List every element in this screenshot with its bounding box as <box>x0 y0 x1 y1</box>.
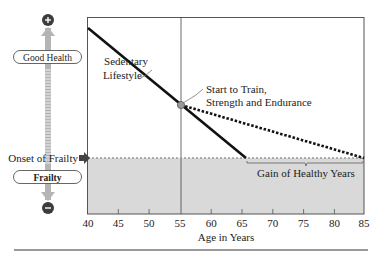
good-health-badge: Good Health <box>14 51 82 64</box>
health-frailty-chart: Sedentary Lifestyle Start to Train, Stre… <box>0 0 380 255</box>
minus-circle-icon <box>42 202 54 214</box>
svg-text:60: 60 <box>206 217 218 229</box>
x-tick-labels: 40 45 50 55 60 65 70 75 80 85 <box>83 217 371 229</box>
svg-text:40: 40 <box>83 217 95 229</box>
x-axis-label: Age in Years <box>198 231 255 243</box>
training-line <box>181 105 364 158</box>
svg-text:45: 45 <box>113 217 125 229</box>
onset-of-frailty-label: Onset of Frailty <box>8 152 78 164</box>
sedentary-label-line2: Lifestyle <box>103 69 142 81</box>
up-arrowhead <box>41 27 55 36</box>
svg-text:65: 65 <box>237 217 249 229</box>
down-arrowhead <box>41 192 55 201</box>
sedentary-label-line1: Sedentary <box>104 55 148 67</box>
svg-text:70: 70 <box>267 217 279 229</box>
svg-text:80: 80 <box>329 217 341 229</box>
training-label-line1: Start to Train, <box>206 83 267 95</box>
svg-text:Frailty: Frailty <box>34 173 62 183</box>
svg-text:75: 75 <box>298 217 310 229</box>
plus-circle-icon <box>42 14 54 26</box>
frailty-badge: Frailty <box>14 171 82 184</box>
gain-label: Gain of Healthy Years <box>257 167 355 179</box>
svg-text:85: 85 <box>359 217 371 229</box>
training-leader <box>183 89 203 103</box>
svg-text:55: 55 <box>175 217 187 229</box>
svg-text:50: 50 <box>144 217 156 229</box>
training-label-line2: Strength and Endurance <box>206 96 312 108</box>
svg-text:Good Health: Good Health <box>23 53 72 63</box>
